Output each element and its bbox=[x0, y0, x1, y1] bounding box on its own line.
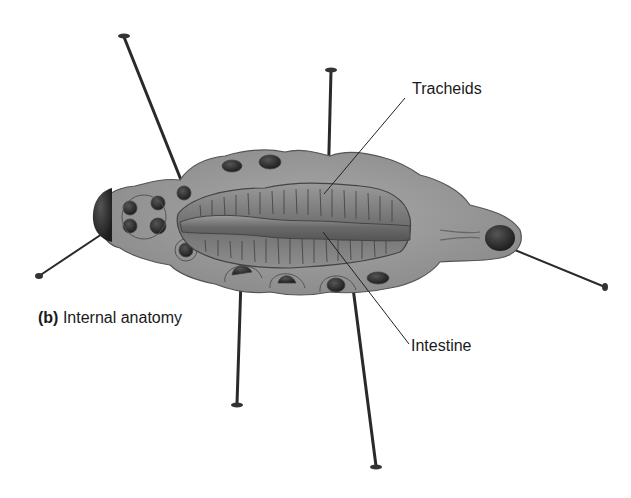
pin-left bbox=[39, 232, 105, 276]
pin-top-left bbox=[124, 37, 185, 190]
caption-letter: (b) bbox=[38, 309, 58, 326]
label-tracheids: Tracheids bbox=[412, 80, 482, 98]
pin-bottom-left bbox=[237, 280, 241, 404]
pin-right bbox=[510, 248, 605, 287]
label-intestine: Intestine bbox=[411, 337, 471, 355]
caption-text: Internal anatomy bbox=[63, 309, 182, 326]
pin-bottom-right bbox=[352, 280, 376, 466]
dissected-specimen-illustration bbox=[0, 0, 631, 498]
tail-cap bbox=[485, 225, 515, 251]
figure-caption: (b) Internal anatomy bbox=[38, 309, 182, 327]
head-cap bbox=[93, 188, 112, 242]
